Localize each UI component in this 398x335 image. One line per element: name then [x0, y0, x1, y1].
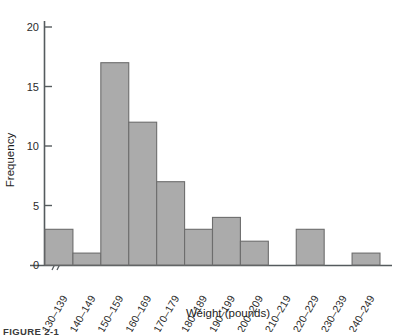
- y-tick-label-0: 0: [33, 259, 39, 271]
- x-tick-label-160–169: 160–169: [123, 293, 154, 332]
- bar-140–149: [73, 253, 101, 265]
- bar-180–189: [185, 229, 213, 265]
- bar-220–229: [296, 229, 324, 265]
- y-axis-title: Frequency: [4, 133, 16, 188]
- x-tick-label-140–149: 140–149: [67, 293, 98, 332]
- x-tick-label-240–249: 240–249: [346, 293, 377, 332]
- y-tick-label-15: 15: [27, 81, 39, 93]
- figure-caption: FIGURE 2-1: [3, 326, 59, 335]
- x-tick-label-220–229: 220–229: [290, 293, 321, 332]
- y-tick-label-5: 5: [33, 200, 39, 212]
- bar-200–209: [240, 241, 268, 265]
- bar-190–199: [213, 217, 241, 265]
- x-axis-title: Weight (pounds): [186, 307, 270, 319]
- bar-group: [45, 63, 380, 265]
- bar-150–159: [101, 63, 129, 265]
- y-tick-label-10: 10: [27, 140, 39, 152]
- y-tick-label-20: 20: [27, 21, 39, 33]
- bar-160–169: [129, 122, 157, 265]
- bar-170–179: [157, 182, 185, 265]
- bar-240–249: [352, 253, 380, 265]
- x-tick-label-170–179: 170–179: [151, 293, 182, 332]
- bar-130–139: [45, 229, 73, 265]
- x-tick-label-230–239: 230–239: [318, 293, 349, 332]
- x-tick-label-150–159: 150–159: [95, 293, 126, 332]
